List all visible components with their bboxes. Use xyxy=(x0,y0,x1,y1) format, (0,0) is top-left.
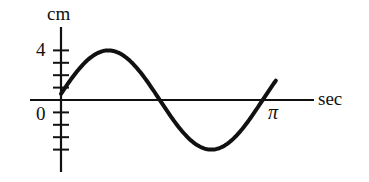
x-unit-label: sec xyxy=(318,88,342,109)
y-unit-label: cm xyxy=(47,3,70,24)
origin-label: 0 xyxy=(36,103,46,124)
y-tick-label-4: 4 xyxy=(36,39,46,60)
sine-wave-diagram: cm 4 0 π sec xyxy=(0,0,369,182)
x-tick-label-pi: π xyxy=(268,101,279,123)
